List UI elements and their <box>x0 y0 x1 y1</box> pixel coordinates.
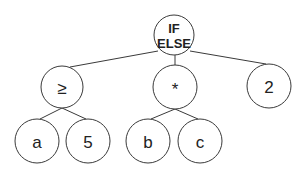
node-five: 5 <box>66 119 110 163</box>
edge-root-two <box>190 51 266 64</box>
edge-gte-a <box>40 108 62 119</box>
node-label: 5 <box>83 133 92 152</box>
node-a: a <box>15 119 59 163</box>
node-gte: ≥ <box>41 66 83 108</box>
node-label: a <box>32 133 42 152</box>
node-label: c <box>196 133 205 152</box>
node-label: ≥ <box>57 79 66 98</box>
node-b: b <box>126 119 170 163</box>
tree-canvas: IF ELSE ≥ * 2 a 5 b <box>0 0 307 175</box>
edge-gte-five <box>62 108 86 119</box>
edge-root-gte <box>70 51 158 67</box>
edge-mul-b <box>151 109 175 119</box>
node-c: c <box>178 119 222 163</box>
node-label: b <box>143 133 152 152</box>
expression-tree-diagram: IF ELSE ≥ * 2 a 5 b <box>0 0 307 175</box>
node-label-line1: IF <box>168 21 180 36</box>
node-two: 2 <box>247 64 291 108</box>
node-if-else: IF ELSE <box>154 15 194 55</box>
node-label: 2 <box>264 78 273 97</box>
edge-mul-c <box>175 109 198 119</box>
node-label-line2: ELSE <box>157 36 191 51</box>
node-label: * <box>172 80 179 99</box>
node-multiply: * <box>153 65 197 109</box>
